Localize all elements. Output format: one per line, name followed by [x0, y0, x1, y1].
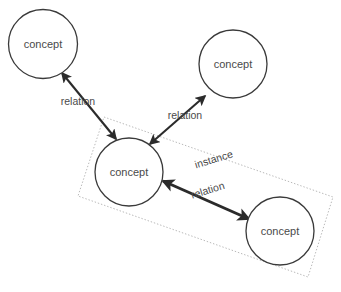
edge-middle-to-bottomright: relation [163, 179, 249, 219]
edge-label-topleft-to-middle: relation [61, 95, 96, 107]
edge-label-middle-to-bottomright: relation [189, 179, 226, 201]
edge-middle-to-topright: relation [150, 96, 205, 144]
node-concept-bottom-right[interactable]: concept [246, 197, 314, 265]
node-concept-middle-left[interactable]: concept [95, 138, 163, 206]
edge-topleft-to-middle: relation [61, 73, 116, 139]
node-label-concept-middle-left: concept [110, 166, 149, 178]
node-label-concept-top-left: concept [24, 38, 63, 50]
diagram-canvas: instance relation relation relation conc… [0, 0, 341, 292]
instance-group-label: instance [193, 147, 234, 170]
node-label-concept-bottom-right: concept [261, 225, 300, 237]
edge-label-middle-to-topright: relation [168, 109, 203, 121]
node-concept-top-right[interactable]: concept [199, 30, 267, 98]
node-label-concept-top-right: concept [214, 58, 253, 70]
diagram-svg: instance relation relation relation conc… [0, 0, 341, 292]
node-concept-top-left[interactable]: concept [9, 10, 78, 79]
